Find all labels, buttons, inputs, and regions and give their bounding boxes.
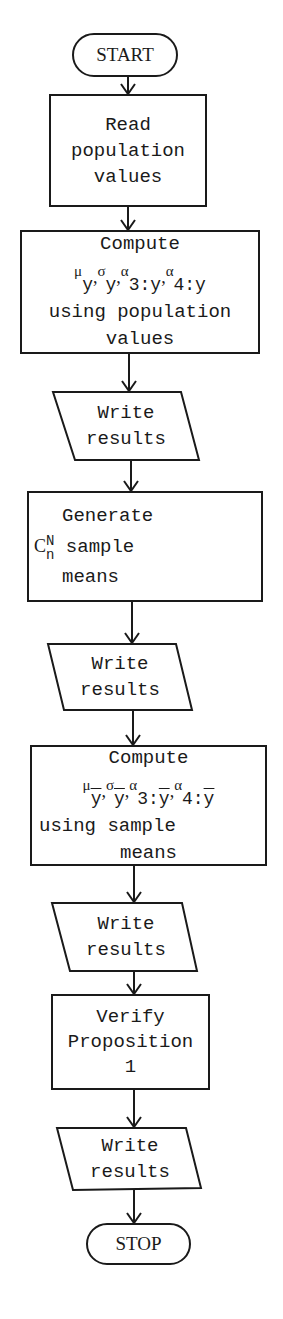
write-1-line-1: Write: [97, 400, 154, 426]
compute-population-step: Compute μy,σy,α3:y,α4:y using population…: [21, 231, 259, 353]
write-2-line-1: Write: [91, 651, 148, 677]
write-4-line-2: results: [90, 1159, 170, 1185]
start-label: START: [96, 42, 154, 68]
read-line-3: values: [94, 164, 162, 190]
start-terminator: START: [73, 34, 177, 76]
read-population-step: Read population values: [50, 95, 206, 206]
combination-count-line: CNn sample: [34, 531, 134, 562]
compute-pop-line-1: Compute: [100, 231, 180, 258]
generate-line-1: Generate: [34, 501, 153, 531]
verify-line-3: 1: [125, 1055, 136, 1080]
sample-moments-formula: μy,σy,α3:y,α4:y: [83, 772, 215, 813]
write-3-line-1: Write: [97, 911, 154, 937]
read-line-2: population: [71, 138, 185, 164]
stop-terminator: STOP: [87, 1224, 190, 1264]
compute-sample-line-1: Compute: [109, 745, 189, 772]
write-4-line-1: Write: [101, 1133, 158, 1159]
write-2-line-2: results: [80, 677, 160, 703]
write-results-1: Write results: [64, 392, 188, 460]
verify-proposition-step: Verify Proposition 1: [52, 995, 209, 1089]
verify-line-2: Proposition: [68, 1030, 193, 1055]
write-3-line-2: results: [86, 937, 166, 963]
write-results-3: Write results: [63, 903, 189, 971]
compute-sample-step: Compute μy,σy,α3:y,α4:y using sample mea…: [31, 746, 266, 865]
compute-pop-line-3: using population: [49, 299, 231, 326]
write-1-line-2: results: [86, 426, 166, 452]
write-results-2: Write results: [58, 644, 182, 710]
compute-sample-line-3: using sample: [31, 813, 176, 840]
stop-label: STOP: [115, 1231, 161, 1257]
compute-pop-line-4: values: [106, 326, 174, 353]
compute-sample-line-4: means: [120, 840, 177, 867]
write-results-4: Write results: [67, 1128, 193, 1189]
read-line-1: Read: [105, 112, 151, 138]
population-moments-formula: μy,σy,α3:y,α4:y: [74, 258, 206, 299]
generate-sample-means-step: Generate CNn sample means: [28, 492, 262, 601]
verify-line-1: Verify: [96, 1005, 164, 1030]
combination-symbol: CNn: [34, 536, 54, 556]
generate-line-3: means: [34, 562, 119, 592]
